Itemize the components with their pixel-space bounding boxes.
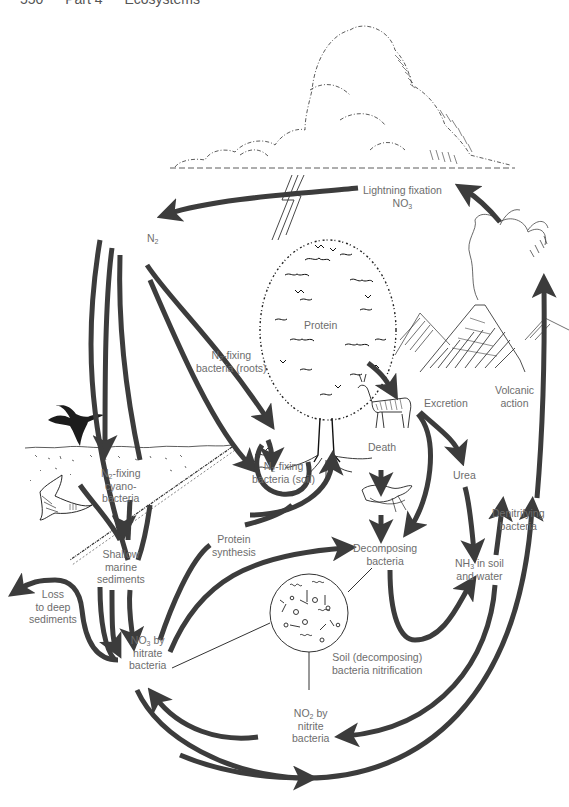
label-lightning-fixation: Lightning fixation NO3 [363,184,442,209]
nitrate-line1: NO3 by [129,634,166,647]
shallow-line2: marine [97,561,145,574]
denitrifying-line1: Denitrifying [492,507,545,520]
label-nh3-soil-water: NH3 in soil and water [455,557,504,582]
volcano-icon [420,305,525,372]
n2-main: N [147,232,155,244]
denitrifying-line2: bacteria [492,520,545,533]
roots-n: N [212,349,220,361]
arrow-urea-to-nh3 [465,487,474,552]
roots-rest: -fixing [223,349,251,361]
nitrate-line3: bacteria [129,659,166,672]
decomposing-line1: Decomposing [353,542,417,555]
nh3-line2: and water [455,570,504,583]
volcanic-line1: Volcanic [495,384,534,397]
bacteria-microscope-icon [270,574,348,652]
nh3-main: NH [455,557,470,569]
label-no3-nitrate-bacteria: NO3 by nitrate bacteria [129,634,166,672]
soil-line1: N2-fixing [252,460,315,473]
arrow-excretion-to-decomposing [410,414,430,528]
cyano-line3: bacteria [101,492,141,505]
lightning-formula-sub: 3 [408,203,412,210]
nitrate-main: NO [131,634,147,646]
label-no2-nitrite-bacteria: NO2 by nitrite bacteria [292,707,329,745]
nitrogen-cycle-diagram: 550 Part 4 Ecosystems [0,0,569,807]
arrow-n2-to-cyano [105,248,112,448]
lightning-formula: NO [393,197,409,209]
label-death: Death [368,441,396,454]
arrow-shallow-to-nitrate-2 [129,590,133,640]
loss-line1: Loss [29,588,77,601]
arrow-denitrifying-up [537,285,544,498]
nitrate-rest: by [151,634,165,646]
label-loss-to-deep-sediments: Loss to deep sediments [29,588,77,626]
dead-fish-icon [362,485,412,512]
soil-rest: -fixing [275,460,303,472]
cloud-shading [395,55,472,164]
shark-icon [40,475,92,520]
label-n2: N2 [147,232,159,245]
volcanic-line2: action [495,397,534,410]
death-text: Death [368,441,396,453]
n2-sub: 2 [155,238,159,245]
arrow-volcano-to-lightning [465,190,500,222]
arrow-n2-to-roots [147,265,268,420]
nitrite-main: NO [294,707,310,719]
loss-line2: to deep [29,601,77,614]
decomposing-line2: bacteria [353,555,417,568]
storm-cloud-icon [170,26,515,168]
cyano-line1: N2-fixing [101,467,141,480]
nh3-rest: in soil [474,557,504,569]
cyano-line2: cyano- [101,480,141,493]
label-urea: Urea [453,469,476,482]
nitrite-rest: by [314,707,328,719]
cyano-rest: -fixing [113,467,141,479]
roots-line1: N2-fixing [196,349,267,362]
nitrite-line1: NO2 by [292,707,329,720]
excretion-text: Excretion [424,397,468,409]
arrow-protein-to-deer [368,363,392,390]
label-excretion: Excretion [424,397,468,410]
diagram-artwork [0,0,569,807]
shallow-line3: sediments [97,573,145,586]
nitrate-line2: nitrate [129,647,166,660]
protein-text: Protein [304,319,337,331]
label-denitrifying-bacteria: Denitrifying bacteria [492,507,545,532]
lightning-bolt-icon [272,175,304,240]
protein-synthesis-line1: Protein [212,533,256,546]
cyano-n: N [101,467,109,479]
label-decomposing-bacteria: Decomposing bacteria [353,542,417,567]
label-n2-fixing-cyanobacteria: N2-fixing cyano- bacteria [101,467,141,505]
label-soil-bacteria-nitrification: Soil (decomposing) bacteria nitrificatio… [332,651,422,676]
protein-synthesis-line2: synthesis [212,546,256,559]
shallow-line1: Shallow [97,548,145,561]
label-shallow-marine-sediments: Shallow marine sediments [97,548,145,586]
label-n2-fixing-soil: N2-fixing bacteria (soil) [252,460,315,485]
label-protein-synthesis: Protein synthesis [212,533,256,558]
label-protein: Protein [304,319,337,332]
volcano-smoke-icon [469,210,548,300]
nitrite-line2: nitrite [292,720,329,733]
nitrification-line1: Soil (decomposing) [332,651,422,664]
roots-line2: bacteria (roots) [196,362,267,375]
nitrite-line3: bacteria [292,732,329,745]
lightning-line2: NO3 [363,197,442,210]
arrow-lightning-to-n2 [168,188,358,214]
nitrification-line2: bacteria nitrification [332,664,422,677]
nh3-line1: NH3 in soil [455,557,504,570]
arrow-shallow-to-nitrate-1 [112,590,116,648]
label-volcanic-action: Volcanic action [495,384,534,409]
lightning-line1: Lightning fixation [363,184,442,197]
loss-line3: sediments [29,613,77,626]
label-n2-fixing-roots: N2-fixing bacteria (roots) [196,349,267,374]
urea-text: Urea [453,469,476,481]
soil-line2: bacteria (soil) [252,473,315,486]
